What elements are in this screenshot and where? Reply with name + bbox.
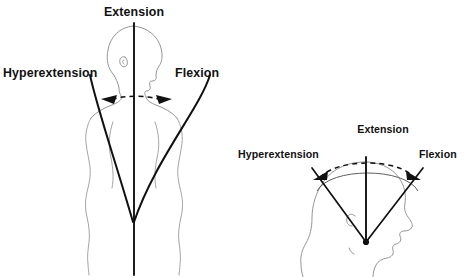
arrowhead-right-anterior — [156, 95, 172, 104]
panel-anterior-view: Extension Hyperextension Flexion — [3, 5, 219, 275]
arrowhead-left-anterior — [101, 95, 117, 104]
panel-lateral-view: Extension Hyperextension Flexion — [238, 123, 457, 277]
anatomy-diagram: Extension Hyperextension Flexion — [0, 0, 466, 277]
label-flexion-anterior: Flexion — [175, 66, 219, 80]
label-hyperextension-lateral: Hyperextension — [238, 148, 319, 160]
motion-curve-right-anterior — [134, 75, 210, 222]
diagram-canvas: Extension Hyperextension Flexion — [0, 0, 466, 277]
label-extension-anterior: Extension — [104, 5, 164, 19]
skull-arc-lateral — [317, 173, 418, 191]
label-extension-lateral: Extension — [357, 123, 409, 135]
label-hyperextension-anterior: Hyperextension — [3, 66, 97, 80]
motion-arc-anterior — [112, 96, 162, 100]
label-flexion-lateral: Flexion — [419, 148, 457, 160]
